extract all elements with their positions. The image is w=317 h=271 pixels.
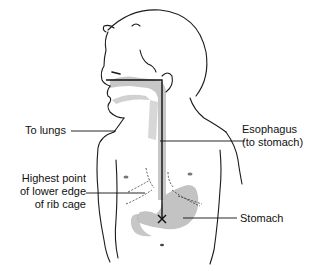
label-stomach: Stomach — [240, 212, 283, 224]
label-rib-cage-2: of lower edge — [0, 185, 86, 197]
digestive-tract-shading — [110, 76, 198, 236]
label-to-lungs: To lungs — [25, 124, 66, 136]
label-rib-cage-1: Highest point — [0, 172, 86, 184]
label-esophagus-sub: (to stomach) — [242, 136, 303, 148]
label-rib-cage-3: of rib cage — [0, 198, 86, 210]
label-esophagus: Esophagus — [242, 123, 297, 135]
